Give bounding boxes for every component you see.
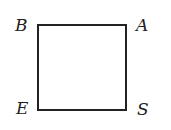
vertex-label-s: S bbox=[137, 101, 149, 118]
square-BASE bbox=[37, 24, 127, 111]
vertex-label-a: A bbox=[136, 17, 148, 34]
vertex-label-b: B bbox=[15, 17, 28, 34]
vertex-label-e: E bbox=[16, 100, 28, 117]
